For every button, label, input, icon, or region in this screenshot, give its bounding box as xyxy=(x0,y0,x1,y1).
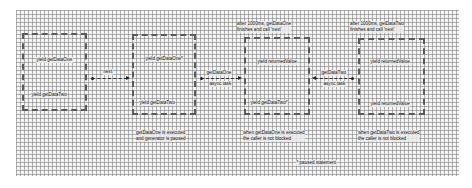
arrow-head-right-icon xyxy=(126,76,130,80)
arrow-tail-dot-icon xyxy=(200,77,203,80)
box-3-caption-above: after 1000ms, getDataOne finishes and ca… xyxy=(237,21,291,33)
next-arrow-label: next xyxy=(103,69,113,75)
box-1-top-label: yield getDataOne xyxy=(36,57,73,63)
box-4-caption-below: when getDataTwo is executed the caller i… xyxy=(358,130,419,142)
box-4-caption-above: after 1000ms, getDataTwo finishes and ca… xyxy=(350,21,404,33)
box-4-bottom-label: yield returnedValue xyxy=(370,101,410,107)
arrow-tail-dot-icon xyxy=(91,77,94,80)
box-2-caption-below: getDataOne is executed and generator is … xyxy=(136,130,186,142)
box-2-top-label: yield getDataOne* xyxy=(145,56,183,62)
getdatatwo-arrow-label: getDataTwo xyxy=(321,70,347,76)
arrow-head-right-icon xyxy=(238,76,242,80)
getdatatwo-arrow-sublabel: async task xyxy=(323,81,346,87)
arrow-tail-dot-icon xyxy=(351,77,354,80)
box-3-bottom-label: yield getDataTwo* xyxy=(250,100,288,106)
generator-state-box-1 xyxy=(22,33,87,111)
getdatatwo-arrow xyxy=(315,78,352,79)
box-1-bottom-label: yield getDataTwo xyxy=(31,92,67,98)
getdataone-arrow-label: getDataOne xyxy=(206,70,232,76)
arrow-head-left-icon xyxy=(312,76,316,80)
box-2-bottom-label: yield getDataTwo xyxy=(139,100,175,106)
footnote: * paused statement xyxy=(296,160,337,166)
next-arrow xyxy=(92,78,127,79)
box-4-top-label: yield returnedValue xyxy=(370,59,410,65)
box-3-top-label: yield returnedValue xyxy=(257,59,297,65)
box-3-caption-below: when getDataOne is executed the caller i… xyxy=(243,130,305,142)
getdataone-arrow-sublabel: async task xyxy=(209,81,232,87)
getdataone-arrow xyxy=(201,78,239,79)
